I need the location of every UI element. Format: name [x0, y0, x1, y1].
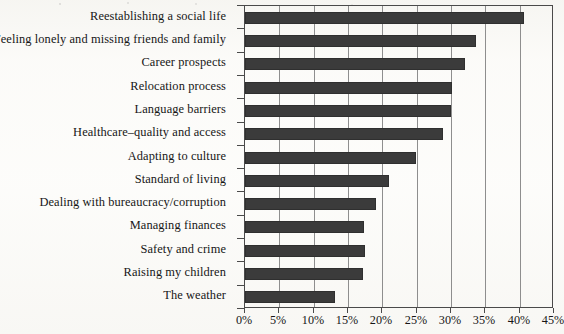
category-label: Feeling lonely and missing friends and f… [0, 33, 226, 46]
bar [245, 221, 364, 233]
category-tick [237, 75, 244, 76]
bar [245, 152, 416, 164]
gridline-35 [485, 6, 486, 307]
category-label: Managing finances [130, 219, 226, 232]
value-tick-label: 20% [370, 313, 392, 327]
category-label: The weather [163, 289, 226, 302]
value-tick-label: 0% [236, 313, 252, 327]
gridline-40 [520, 6, 521, 307]
category-tick [237, 145, 244, 146]
gridline-25 [417, 6, 418, 307]
category-label: Raising my children [124, 266, 226, 279]
category-label: Career prospects [141, 56, 226, 69]
category-label: Adapting to culture [128, 150, 226, 163]
bar [245, 12, 524, 24]
category-axis-labels: Reestablishing a social lifeFeeling lone… [0, 5, 232, 308]
value-tick-label: 40% [508, 313, 530, 327]
bar [245, 291, 335, 303]
category-label: Standard of living [135, 173, 226, 186]
category-tick [237, 261, 244, 262]
bar-chart: Reestablishing a social lifeFeeling lone… [0, 0, 564, 334]
bar [245, 82, 452, 94]
category-tick [237, 98, 244, 99]
category-tick [237, 28, 244, 29]
gridline-30 [451, 6, 452, 307]
category-label: Relocation process [130, 80, 226, 93]
value-tick-label: 35% [473, 313, 495, 327]
bar [245, 198, 376, 210]
bar [245, 105, 451, 117]
bar [245, 268, 363, 280]
category-label: Reestablishing a social life [90, 10, 226, 23]
bar [245, 175, 389, 187]
value-tick-label: 25% [405, 313, 427, 327]
value-tick-label: 45% [542, 313, 564, 327]
value-tick-label: 5% [270, 313, 286, 327]
bar [245, 245, 365, 257]
category-label: Language barriers [135, 103, 226, 116]
bar [245, 35, 476, 47]
value-tick-label: 30% [439, 313, 461, 327]
category-tick [237, 191, 244, 192]
category-tick [237, 308, 244, 309]
category-tick [237, 215, 244, 216]
value-tick-label: 15% [336, 313, 358, 327]
category-label: Dealing with bureaucracy/corruption [39, 196, 226, 209]
plot-area [244, 5, 553, 308]
category-tick [237, 52, 244, 53]
category-label: Healthcare–quality and access [73, 126, 226, 139]
bar [245, 128, 443, 140]
category-tick [237, 238, 244, 239]
category-tick [237, 122, 244, 123]
bar [245, 58, 465, 70]
category-label: Safety and crime [140, 243, 226, 256]
value-axis-tick-labels: 0%5%10%15%20%25%30%35%40%45% [0, 313, 564, 331]
category-tick [237, 168, 244, 169]
category-tick [237, 285, 244, 286]
value-tick-label: 10% [302, 313, 324, 327]
category-tick [237, 5, 244, 6]
